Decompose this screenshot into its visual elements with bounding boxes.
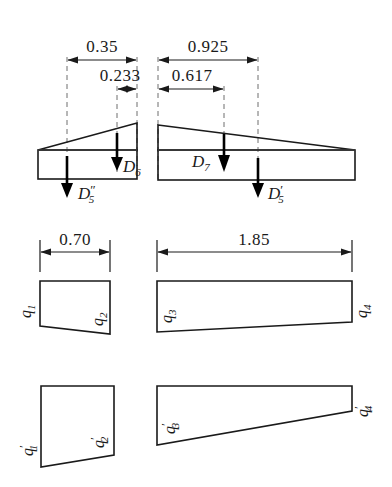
rect-right xyxy=(158,150,355,180)
load-label-q2-prime: q′2 xyxy=(87,436,110,448)
load-label-q1-prime: q′1 xyxy=(16,445,39,456)
force-arrow-d6 xyxy=(111,133,123,171)
panel-q1p-q2p: q′1 q′2 xyxy=(16,386,114,467)
dimension-0-70-label: 0.70 xyxy=(59,230,91,249)
force-arrow-d5-double-prime xyxy=(61,156,73,198)
load-label-q3: q3 xyxy=(158,309,178,323)
dimension-0-35: 0.35 xyxy=(68,37,136,60)
dimension-0-35-label: 0.35 xyxy=(86,37,118,56)
force-arrow-d7 xyxy=(218,134,230,172)
dimension-0-617-label: 0.617 xyxy=(172,66,213,85)
panel-d5-d7: 0.925 0.617 D7 D′5 xyxy=(158,37,355,205)
dimension-0-617: 0.617 xyxy=(159,66,223,89)
dimension-0-70: 0.70 xyxy=(41,230,109,252)
panel-q1-q2: 0.70 q1 q2 xyxy=(17,230,110,334)
force-label-d5-prime: D′5 xyxy=(267,182,284,205)
force-label-d5-double-prime: D″5 xyxy=(77,182,96,205)
dimension-1-85-label: 1.85 xyxy=(238,230,270,249)
wedge-left xyxy=(38,123,137,150)
load-diagram-figure: 0.35 0.233 D6 D″5 xyxy=(0,0,392,487)
load-label-q4-prime: q′4 xyxy=(351,405,374,417)
force-label-d7: D7 xyxy=(191,152,210,173)
trapezoid-q3p-q4p xyxy=(157,386,352,445)
force-label-d6: D6 xyxy=(122,157,141,178)
dimension-0-233-label: 0.233 xyxy=(100,66,141,85)
trapezoid-q3-q4 xyxy=(157,281,352,332)
dimension-0-233: 0.233 xyxy=(100,66,141,89)
dimension-0-925-label: 0.925 xyxy=(188,37,229,56)
force-arrow-d5-prime xyxy=(252,158,264,198)
load-label-q2: q2 xyxy=(89,312,109,326)
panel-q3-q4: 1.85 q3 q4 xyxy=(157,230,373,332)
load-label-q1: q1 xyxy=(17,305,37,319)
dimension-0-925: 0.925 xyxy=(159,37,257,60)
panel-d5-d6: 0.35 0.233 D6 D″5 xyxy=(38,37,141,205)
wedge-right xyxy=(158,125,355,150)
load-label-q4: q4 xyxy=(353,304,373,318)
dimension-1-85: 1.85 xyxy=(158,230,351,252)
trapezoid-q1p-q2p xyxy=(41,386,114,467)
load-label-q3-prime: q′3 xyxy=(158,422,181,434)
panel-q3p-q4p: q′3 q′4 xyxy=(157,386,374,445)
